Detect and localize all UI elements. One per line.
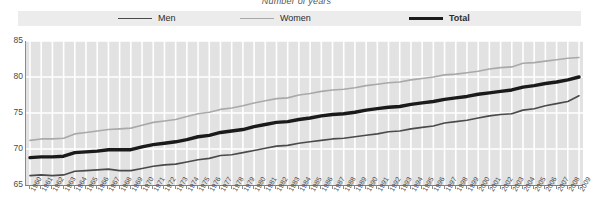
legend-label-men: Men: [158, 14, 176, 23]
y-axis-tick-label: 80: [1, 72, 23, 81]
legend-item-total[interactable]: Total: [409, 11, 470, 26]
y-axis-tick-label: 70: [1, 144, 23, 153]
legend-line-icon-total: [409, 17, 443, 20]
series-line-women: [30, 58, 579, 141]
series-line-total: [30, 77, 579, 158]
series-canvas: [26, 41, 583, 185]
series-line-men: [30, 96, 579, 176]
plot-area: [26, 41, 583, 185]
legend-label-total: Total: [449, 14, 470, 23]
legend-item-men[interactable]: Men: [118, 11, 176, 26]
legend-item-women[interactable]: Women: [240, 11, 311, 26]
y-axis-tick-label: 75: [1, 108, 23, 117]
x-axis-labels: 1960196119621963196419651966196719681969…: [0, 186, 593, 213]
y-axis-tick-label: 85: [1, 36, 23, 45]
y-axis-labels: 8580757065: [0, 0, 23, 213]
chart-title: Number of years: [0, 0, 593, 6]
legend-line-icon-men: [118, 18, 152, 19]
legend-line-icon-women: [240, 18, 274, 19]
chart-root: Number of years Men Women Total 85807570…: [0, 0, 593, 213]
legend-label-women: Women: [280, 14, 311, 23]
